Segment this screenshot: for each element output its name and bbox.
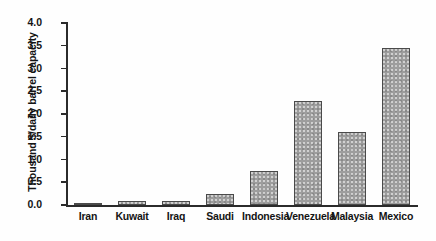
bar	[162, 201, 189, 205]
x-axis-category-label: Iraq	[154, 210, 198, 222]
y-axis-tick-label: 3.5	[0, 40, 42, 51]
x-axis-category-label: Saudi	[198, 210, 242, 222]
y-axis-tick-label: 1.0	[0, 154, 42, 165]
bar	[250, 171, 277, 205]
bar-column	[382, 21, 409, 205]
y-axis-tick-label: 4.0	[0, 17, 42, 28]
x-axis-category-label: Mexico	[374, 210, 418, 222]
bar	[74, 203, 101, 205]
x-axis-category-label: Indonesia	[242, 210, 286, 222]
bar-column	[250, 21, 277, 205]
bar-column	[338, 21, 365, 205]
x-axis-category-label: Venezuela	[286, 210, 330, 222]
bar-column	[118, 21, 145, 205]
bar-column	[74, 21, 101, 205]
bar-column	[206, 21, 233, 205]
bar	[118, 201, 145, 205]
bar	[382, 48, 409, 205]
bar-series	[66, 22, 418, 206]
bar	[206, 194, 233, 205]
bar	[294, 101, 321, 205]
bar-column	[162, 21, 189, 205]
plot-area: 0.00.51.01.52.02.53.03.54.0 IranKuwaitIr…	[66, 22, 418, 206]
x-axis-category-label: Malaysia	[330, 210, 374, 222]
x-axis-category-label: Kuwait	[110, 210, 154, 222]
y-axis-tick-label: 3.0	[0, 63, 42, 74]
bar	[338, 132, 365, 205]
y-axis-tick-label: 0.0	[0, 199, 42, 210]
bar-column	[294, 21, 321, 205]
y-axis-tick-label: 1.5	[0, 131, 42, 142]
bar-chart: Thousand $/daily barrel capacity 0.00.51…	[0, 0, 436, 241]
y-axis-tick-label: 2.0	[0, 108, 42, 119]
y-axis-tick-label: 0.5	[0, 176, 42, 187]
x-axis-category-label: Iran	[66, 210, 110, 222]
y-axis-tick-label: 2.5	[0, 85, 42, 96]
